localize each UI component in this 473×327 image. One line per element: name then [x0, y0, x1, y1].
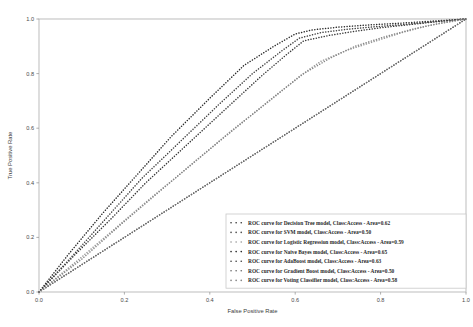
- x-tick-label: 0.2: [121, 297, 129, 303]
- y-tick-label: 0.4: [26, 180, 34, 186]
- y-tick-label: 0.0: [26, 289, 34, 295]
- x-axis-title: False Positive Rate: [228, 308, 278, 314]
- legend-item[interactable]: ROC curve for Voting Classifier model, C…: [231, 277, 398, 283]
- legend-label: ROC curve for AdaBoost model, Class:Acce…: [248, 258, 382, 264]
- x-tick-label: 1.0: [462, 297, 470, 303]
- legend-label: ROC curve for Gradient Boost model, Clas…: [248, 268, 395, 274]
- legend-label: ROC curve for Logistic Regression model,…: [248, 239, 404, 245]
- y-tick-label: 1.0: [26, 16, 34, 22]
- legend-item[interactable]: ROC curve for Gradient Boost model, Clas…: [231, 268, 395, 274]
- x-tick-label: 0.4: [206, 297, 214, 303]
- legend-label: ROC curve for Voting Classifier model, C…: [248, 277, 398, 283]
- x-axis-ticks: 0.00.20.40.60.81.0: [35, 292, 470, 303]
- y-tick-label: 0.2: [26, 234, 34, 240]
- x-tick-label: 0.0: [35, 297, 43, 303]
- legend-item[interactable]: ROC curve for Logistic Regression model,…: [231, 239, 404, 245]
- legend-item[interactable]: ROC curve for AdaBoost model, Class:Acce…: [231, 258, 382, 264]
- chart-legend[interactable]: ROC curve for Decision Tree model, Class…: [226, 214, 466, 288]
- legend-label: ROC curve for SVM model, Class:Access - …: [248, 229, 371, 235]
- x-tick-label: 0.8: [377, 297, 385, 303]
- legend-item[interactable]: ROC curve for Decision Tree model, Class…: [231, 220, 390, 226]
- legend-label: ROC curve for Naive Bayes model, Class:A…: [248, 249, 387, 255]
- y-axis-ticks: 0.00.20.40.60.81.0: [26, 16, 39, 295]
- legend-label: ROC curve for Decision Tree model, Class…: [248, 220, 390, 226]
- legend-item[interactable]: ROC curve for Naive Bayes model, Class:A…: [231, 249, 387, 255]
- legend-item[interactable]: ROC curve for SVM model, Class:Access - …: [231, 229, 371, 235]
- y-tick-label: 0.6: [26, 125, 34, 131]
- y-tick-label: 0.8: [26, 71, 34, 77]
- x-tick-label: 0.6: [291, 297, 299, 303]
- roc-chart-canvas: 0.00.20.40.60.81.0 0.00.20.40.60.81.0 Fa…: [0, 0, 473, 327]
- y-axis-title: True Positive Rate: [7, 132, 13, 179]
- roc-chart-figure: 0.00.20.40.60.81.0 0.00.20.40.60.81.0 Fa…: [0, 0, 473, 327]
